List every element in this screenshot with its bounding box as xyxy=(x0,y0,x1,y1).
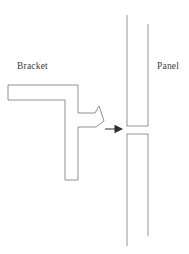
panel-upper-group xyxy=(127,15,149,126)
bracket-label: Bracket xyxy=(17,62,48,72)
diagram-canvas: Bracket Panel xyxy=(0,0,189,254)
panel-label: Panel xyxy=(157,62,179,72)
insertion-arrow-icon xyxy=(105,125,123,133)
assembly-diagram-svg xyxy=(0,0,189,254)
insertion-arrow-head xyxy=(115,125,124,133)
panel-lower-group xyxy=(127,134,149,246)
bracket-outline-shape xyxy=(8,85,104,180)
